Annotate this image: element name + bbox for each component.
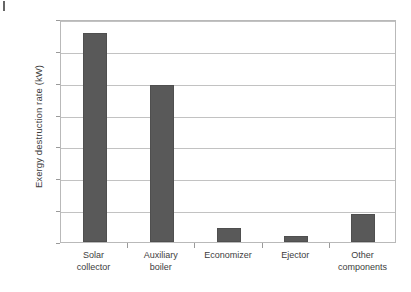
x-tick-mark [329, 243, 330, 248]
x-category-line: Economizer [194, 250, 261, 262]
y-tick-mark [56, 116, 60, 117]
bar-4 [284, 236, 308, 242]
x-category-label: Auxiliaryboiler [127, 250, 194, 273]
y-tick-mark [56, 84, 60, 85]
chart-figure: Exergy destruction rate (kW) 02468101214… [0, 0, 411, 292]
x-category-line: Auxiliary [127, 250, 194, 262]
bar-3 [217, 228, 241, 242]
x-category-label: Economizer [194, 250, 261, 262]
x-category-line: components [329, 262, 396, 274]
x-category-label: Othercomponents [329, 250, 396, 273]
x-category-line: Other [329, 250, 396, 262]
y-axis-title: Exergy destruction rate (kW) [33, 27, 44, 227]
y-tick-mark [56, 179, 60, 180]
x-tick-mark [194, 243, 195, 248]
x-category-label: Ejector [262, 250, 329, 262]
x-category-line: collector [60, 262, 127, 274]
x-tick-mark [127, 243, 128, 248]
x-category-line: Ejector [262, 250, 329, 262]
y-tick-mark [56, 243, 60, 244]
y-tick-mark [56, 147, 60, 148]
x-category-line: Solar [60, 250, 127, 262]
y-tick-mark [56, 211, 60, 212]
page-edge-mark [3, 1, 5, 11]
bar-1 [83, 33, 107, 242]
x-tick-mark [262, 243, 263, 248]
y-tick-mark [56, 52, 60, 53]
bar-5 [351, 214, 375, 242]
y-tick-mark [56, 20, 60, 21]
x-category-label: Solarcollector [60, 250, 127, 273]
plot-area [60, 20, 396, 243]
bar-2 [150, 85, 174, 242]
bar-series [61, 21, 395, 242]
x-category-line: boiler [127, 262, 194, 274]
